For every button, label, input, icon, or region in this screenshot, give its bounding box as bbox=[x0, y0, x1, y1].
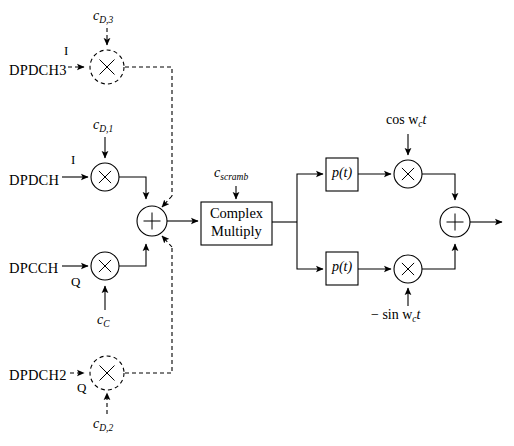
dpdch2-to-adder-path bbox=[125, 236, 172, 373]
dpdch3-to-adder-path bbox=[125, 67, 172, 207]
branch-label-dpdch3-i: I bbox=[64, 44, 68, 57]
carrier-label-sin: − sin wct bbox=[371, 308, 420, 322]
input-label-dpdch3: DPDCH3 bbox=[9, 63, 67, 78]
mult-sin-to-adder-line bbox=[422, 244, 455, 269]
input-label-dpdch2: DPDCH2 bbox=[9, 368, 67, 383]
code-label-c-d-1: cD,1 bbox=[93, 118, 113, 132]
branch-label-dpdch2-q: Q bbox=[77, 381, 86, 394]
carrier-sin-text: − sin w bbox=[371, 307, 412, 322]
carrier-sin-tail: t bbox=[417, 307, 421, 322]
branch-label-dpdch-i: I bbox=[71, 153, 75, 166]
mult-cos-to-adder-line bbox=[422, 174, 455, 200]
code-sub-c-d-2: D,2 bbox=[99, 423, 113, 433]
input-label-dpdch: DPDCH bbox=[9, 173, 59, 188]
code-sub-c-c: C bbox=[103, 319, 109, 329]
code-label-c-d-3: cD,3 bbox=[93, 9, 113, 23]
carrier-sin-sub: c bbox=[412, 314, 416, 324]
input-label-dpcch: DPCCH bbox=[9, 261, 58, 276]
adder-right-symbol bbox=[440, 207, 470, 237]
pulse-shape-q-label: p(t) bbox=[326, 260, 358, 274]
complex-multiply-output-split bbox=[272, 174, 323, 269]
block-diagram-canvas: DPDCH3 I DPDCH I DPCCH Q DPDCH2 Q cD,3 c… bbox=[0, 0, 514, 446]
mult-sin-symbol bbox=[394, 255, 422, 283]
dpdch-to-adder-path bbox=[119, 177, 146, 199]
code-label-c-d-2: cD,2 bbox=[93, 417, 113, 431]
mult-cos-symbol bbox=[394, 160, 422, 188]
mult-dpdch2-symbol bbox=[90, 356, 124, 390]
complex-multiply-label-line1: Complex bbox=[201, 206, 272, 221]
code-sub-c-d-1: D,1 bbox=[99, 124, 113, 134]
code-sub-c-d-3: D,3 bbox=[99, 15, 113, 25]
pulse-shape-i-label: p(t) bbox=[326, 166, 358, 180]
branch-label-dpcch-q: Q bbox=[71, 275, 80, 288]
code-label-c-scramb: cscramb bbox=[214, 166, 248, 180]
adder-left-symbol bbox=[137, 206, 167, 236]
carrier-cos-sub: c bbox=[418, 119, 422, 129]
code-sub-c-scramb: scramb bbox=[220, 172, 248, 182]
mult-dpdch3-symbol bbox=[90, 50, 124, 84]
carrier-cos-tail: t bbox=[423, 112, 427, 127]
mult-dpdch-symbol bbox=[91, 163, 119, 191]
dpcch-to-adder-path bbox=[119, 244, 146, 266]
code-label-c-c: cC bbox=[97, 313, 110, 327]
carrier-label-cos: cos wct bbox=[386, 113, 426, 127]
complex-multiply-label-line2: Multiply bbox=[201, 224, 272, 239]
carrier-cos-text: cos w bbox=[386, 112, 418, 127]
mult-dpcch-symbol bbox=[91, 252, 119, 280]
